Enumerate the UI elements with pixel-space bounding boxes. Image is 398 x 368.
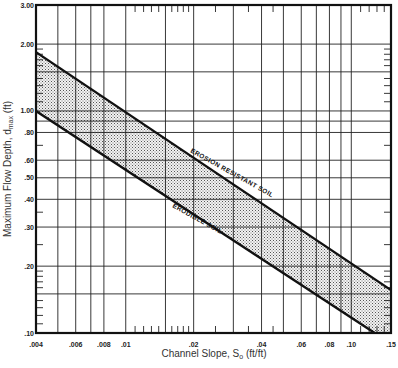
y-tick-labels: 3.002.001.00.80.60.50.40.30.20.10 (20, 2, 34, 337)
y-tick-label: .40 (24, 196, 34, 203)
x-tick-label: .10 (346, 341, 356, 348)
erosion-resistant-line (36, 52, 391, 290)
shaded-band (36, 52, 391, 333)
x-axis-title: Channel Slope, So (ft/ft) (161, 348, 266, 360)
x-tick-label: .01 (121, 341, 131, 348)
y-axis-title: Maximum Flow Depth, dmax (ft) (2, 101, 14, 237)
x-tick-label: .04 (257, 341, 267, 348)
y-tick-label: .10 (24, 330, 34, 337)
x-tick-label: .08 (325, 341, 335, 348)
x-tick-label: .008 (97, 341, 111, 348)
y-tick-label: 2.00 (20, 41, 34, 48)
x-tick-label: .06 (296, 341, 306, 348)
x-tick-label: .006 (69, 341, 83, 348)
x-tick-label: .02 (189, 341, 199, 348)
y-tick-label: .60 (24, 157, 34, 164)
y-tick-label: .80 (24, 129, 34, 136)
y-tick-label: 1.00 (20, 107, 34, 114)
x-tick-label: .004 (29, 341, 43, 348)
x-tick-label: .15 (386, 341, 396, 348)
x-tick-labels: .004.006.008.01.02.04.06.08.10.15 (29, 341, 396, 348)
y-tick-label: .50 (24, 174, 34, 181)
flow-depth-chart: .004.006.008.01.02.04.06.08.10.15 3.002.… (0, 0, 398, 368)
y-tick-label: 3.00 (20, 2, 34, 9)
y-tick-label: .30 (24, 224, 34, 231)
y-tick-label: .20 (24, 263, 34, 270)
